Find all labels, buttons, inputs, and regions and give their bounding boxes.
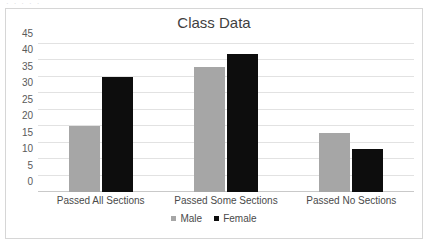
- bar-group: [163, 44, 288, 192]
- y-axis-tick-10: 10: [22, 143, 33, 154]
- chart-legend: MaleFemale: [6, 213, 422, 224]
- x-axis-label: Passed All Sections: [38, 195, 163, 206]
- x-axis-label: Passed No Sections: [289, 195, 414, 206]
- bar-female[interactable]: [102, 77, 133, 192]
- legend-item-female[interactable]: Female: [214, 213, 256, 224]
- bar-male[interactable]: [69, 126, 100, 192]
- y-axis-tick-0: 0: [27, 176, 33, 187]
- legend-swatch-icon: [214, 216, 219, 221]
- chart-title: Class Data: [6, 14, 422, 31]
- y-axis-tick-45: 45: [22, 28, 33, 39]
- bar-group: [38, 44, 163, 192]
- legend-item-male[interactable]: Male: [171, 213, 202, 224]
- plot-area: 454035302520151050: [38, 44, 414, 192]
- y-axis-tick-15: 15: [22, 126, 33, 137]
- x-axis-label: Passed Some Sections: [163, 195, 288, 206]
- y-axis-tick-20: 20: [22, 110, 33, 121]
- bar-female[interactable]: [352, 149, 383, 192]
- x-axis-labels: Passed All SectionsPassed Some SectionsP…: [38, 195, 414, 206]
- y-axis-tick-35: 35: [22, 60, 33, 71]
- y-axis-tick-5: 5: [27, 159, 33, 170]
- legend-swatch-icon: [171, 216, 176, 221]
- y-axis-tick-40: 40: [22, 44, 33, 55]
- bar-group: [289, 44, 414, 192]
- legend-label: Male: [180, 213, 202, 224]
- legend-label: Female: [223, 213, 256, 224]
- bar-groups: [38, 44, 414, 192]
- y-axis-tick-30: 30: [22, 77, 33, 88]
- bar-male[interactable]: [319, 133, 350, 192]
- top-cutoff-text: · · · · ·: [0, 0, 429, 7]
- bar-male[interactable]: [194, 67, 225, 192]
- chart-card: Class Data 454035302520151050 Passed All…: [5, 8, 423, 239]
- y-axis-tick-25: 25: [22, 93, 33, 104]
- bar-female[interactable]: [227, 54, 258, 192]
